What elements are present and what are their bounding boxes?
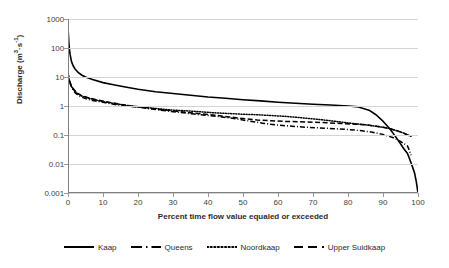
- y-tick-label-0.1: 0.1: [53, 131, 64, 140]
- x-tick-mark: [138, 193, 139, 197]
- x-tick-label-90: 90: [379, 198, 388, 207]
- y-tick-label-1000: 1000: [47, 15, 64, 24]
- legend-item-upper-suidkaap[interactable]: Upper Suidkaap: [294, 242, 385, 252]
- legend-item-kaap[interactable]: Kaap: [64, 242, 117, 252]
- chart-legend: KaapQueensNoordkaapUpper Suidkaap: [0, 236, 449, 258]
- x-tick-label-80: 80: [344, 198, 353, 207]
- y-axis-title-text: Discharge (m3·s-1): [14, 35, 23, 104]
- legend-swatch-dashed-icon: [294, 242, 324, 252]
- x-tick-mark: [313, 193, 314, 197]
- y-axis-title: Discharge (m3·s-1): [13, 9, 24, 129]
- x-tick-mark: [348, 193, 349, 197]
- x-tick-label-0: 0: [66, 198, 70, 207]
- y-tick-label-100: 100: [51, 44, 64, 53]
- y-axis-tick-labels: 10001001010.10.010.001: [28, 19, 64, 193]
- x-axis-tick-labels: 0102030405060708090100: [68, 198, 418, 210]
- x-tick-mark: [383, 193, 384, 197]
- x-tick-mark: [173, 193, 174, 197]
- y-tick-label-10: 10: [55, 73, 64, 82]
- plot-area: [68, 19, 418, 193]
- x-tick-label-70: 70: [309, 198, 318, 207]
- x-tick-label-50: 50: [239, 198, 248, 207]
- x-axis-title: Percent time flow value equaled or excee…: [68, 212, 418, 221]
- x-tick-label-30: 30: [169, 198, 178, 207]
- y-tick-label-0.001: 0.001: [44, 189, 64, 198]
- legend-swatch-dash-dot-icon: [131, 242, 161, 252]
- legend-label: Queens: [165, 243, 193, 252]
- legend-label: Noordkaap: [241, 243, 280, 252]
- plot-frame: [68, 19, 418, 193]
- x-tick-label-40: 40: [204, 198, 213, 207]
- legend-label: Upper Suidkaap: [328, 243, 385, 252]
- x-tick-label-60: 60: [274, 198, 283, 207]
- x-tick-label-20: 20: [134, 198, 143, 207]
- x-tick-mark: [243, 193, 244, 197]
- x-tick-label-10: 10: [99, 198, 108, 207]
- legend-swatch-solid-icon: [64, 242, 94, 252]
- y-tick-label-0.01: 0.01: [49, 160, 64, 169]
- x-tick-mark: [278, 193, 279, 197]
- legend-item-queens[interactable]: Queens: [131, 242, 193, 252]
- x-tick-mark: [103, 193, 104, 197]
- x-tick-mark: [418, 193, 419, 197]
- flow-duration-curve-chart: Discharge (m3·s-1) 10001001010.10.010.00…: [0, 0, 449, 268]
- x-tick-mark: [68, 193, 69, 197]
- legend-item-noordkaap[interactable]: Noordkaap: [207, 242, 280, 252]
- x-tick-label-100: 100: [411, 198, 424, 207]
- x-tick-mark: [208, 193, 209, 197]
- legend-swatch-dotted-icon: [207, 242, 237, 252]
- legend-label: Kaap: [98, 243, 117, 252]
